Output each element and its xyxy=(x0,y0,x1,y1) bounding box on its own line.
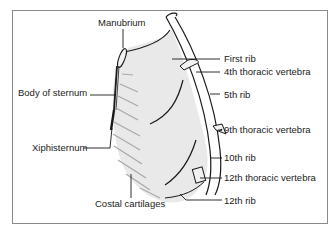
label-fourth-thoracic-vertebra: 4th thoracic vertebra xyxy=(224,66,311,77)
label-ninth-thoracic-vertebra: 9th thoracic vertebra xyxy=(224,124,311,135)
thoracic-cage-illustration xyxy=(0,0,336,235)
label-fifth-rib: 5th rib xyxy=(224,89,250,100)
first-rib-head xyxy=(166,13,177,17)
chest-shading xyxy=(113,30,208,202)
label-first-rib: First rib xyxy=(224,53,256,64)
label-costal-cartilages: Costal cartilages xyxy=(95,198,165,209)
label-tenth-rib: 10th rib xyxy=(224,152,256,163)
label-twelfth-thoracic-vertebra: 12th thoracic vertebra xyxy=(224,172,316,183)
label-xiphisternum: Xiphisternum xyxy=(32,142,87,153)
label-twelfth-rib: 12th rib xyxy=(224,195,256,206)
label-manubrium: Manubrium xyxy=(98,17,146,28)
label-body-of-sternum: Body of sternum xyxy=(18,87,87,98)
xiphisternum-shape xyxy=(111,110,114,130)
